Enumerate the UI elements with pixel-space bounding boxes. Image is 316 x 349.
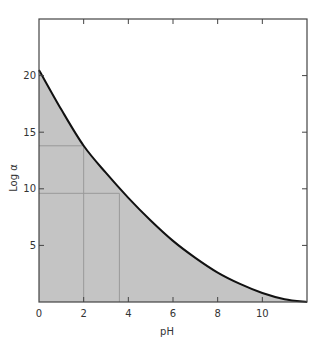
x-tick-label: 8 [214, 308, 220, 319]
x-tick-label: 6 [170, 308, 176, 319]
x-tick-label: 2 [80, 308, 86, 319]
y-tick-label: 20 [23, 70, 36, 81]
x-axis-label: pH [160, 326, 174, 337]
plot-area [39, 70, 307, 302]
x-tick-label: 10 [256, 308, 269, 319]
y-tick-label: 15 [23, 127, 36, 138]
x-tick-label: 0 [36, 308, 42, 319]
y-tick-label: 5 [30, 240, 36, 251]
y-tick-label: 10 [23, 183, 36, 194]
log-alpha-vs-ph-chart: 02468105101520 pH Log α [0, 0, 316, 349]
x-tick-label: 4 [125, 308, 131, 319]
y-axis-label: Log α [8, 164, 19, 192]
shaded-area [39, 70, 307, 302]
